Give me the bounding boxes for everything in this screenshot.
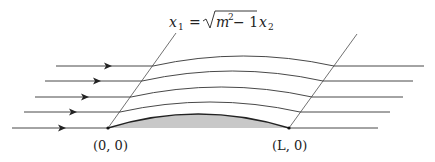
endpoint-L [287,126,290,129]
origin-label: (0, 0) [93,138,128,153]
origin-point [106,126,109,129]
svg-text:2: 2 [268,22,274,32]
svg-text:=: = [189,14,201,30]
characteristic-line-left [108,33,176,128]
svg-text:x: x [169,14,177,30]
streamline-5-curve [153,56,334,66]
characteristic-equation: x 1 = m 2 − 1 x 2 [169,11,274,32]
endpoint-label: (L, 0) [272,138,307,153]
streamline-4-curve [142,71,323,81]
streamline-3-curve [131,87,312,97]
svg-text:1: 1 [178,22,184,32]
diagram-canvas: (0, 0) (L, 0) x 1 = m 2 − 1 x 2 [0,0,435,162]
svg-text:− 1: − 1 [233,14,258,30]
streamline-2-curve [120,102,300,112]
svg-text:x: x [259,14,267,30]
